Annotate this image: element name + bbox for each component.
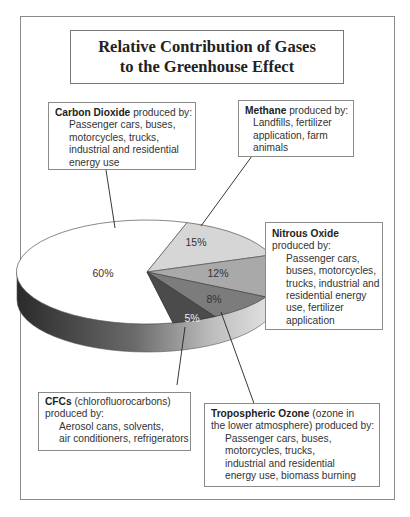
label-15: 15%	[185, 236, 206, 248]
label-5: 5%	[184, 312, 199, 324]
callout-carbon-dioxide: Carbon Dioxide produced by: Passenger ca…	[48, 102, 196, 170]
gas-name-co2: Carbon Dioxide	[55, 107, 130, 118]
gas-name-n2o: Nitrous Oxide	[272, 228, 339, 239]
label-12: 12%	[207, 267, 228, 279]
label-60: 60%	[92, 267, 113, 279]
leader-co2	[106, 170, 115, 228]
callout-methane: Methane produced by: Landfills, fertiliz…	[238, 100, 354, 157]
leader-methane	[201, 156, 252, 226]
gas-name-cfcs: CFCs	[45, 396, 72, 407]
callout-nitrous-oxide: Nitrous Oxide produced by: Passenger car…	[265, 222, 383, 330]
gas-name-methane: Methane	[245, 105, 286, 116]
callout-cfcs: CFCs (chlorofluorocarbons) produced by: …	[38, 392, 191, 451]
callout-tropospheric-ozone: Tropospheric Ozone (ozone in the lower a…	[204, 403, 380, 487]
label-8: 8%	[206, 293, 221, 305]
gas-name-ozone: Tropospheric Ozone	[211, 408, 310, 419]
